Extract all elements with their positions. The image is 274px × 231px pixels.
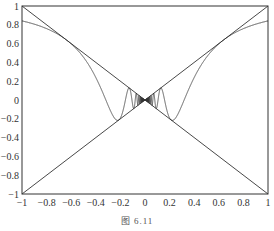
svg-text:−1: −1 xyxy=(8,189,19,200)
svg-text:0.4: 0.4 xyxy=(7,57,20,68)
axis-ticks: −1−0.8−0.6−0.4−0.200.20.40.60.81−1−0.8−0… xyxy=(1,1,271,209)
svg-text:−0.4: −0.4 xyxy=(1,132,19,143)
svg-text:0.2: 0.2 xyxy=(163,197,176,208)
svg-text:0.6: 0.6 xyxy=(7,38,20,49)
svg-text:0: 0 xyxy=(14,95,19,106)
svg-text:1: 1 xyxy=(266,197,271,208)
svg-text:−0.2: −0.2 xyxy=(111,197,129,208)
svg-text:0.8: 0.8 xyxy=(237,197,250,208)
svg-text:0.4: 0.4 xyxy=(188,197,201,208)
svg-text:0.6: 0.6 xyxy=(213,197,226,208)
figure-caption: 图 6.11 xyxy=(0,214,274,227)
svg-text:0.2: 0.2 xyxy=(7,76,20,87)
svg-text:0: 0 xyxy=(143,197,148,208)
plot-lines xyxy=(22,6,268,194)
svg-text:−0.8: −0.8 xyxy=(1,170,19,181)
svg-text:−0.6: −0.6 xyxy=(1,151,19,162)
svg-text:−0.6: −0.6 xyxy=(62,197,80,208)
svg-text:−0.4: −0.4 xyxy=(87,197,105,208)
svg-text:1: 1 xyxy=(14,1,19,12)
svg-text:−0.2: −0.2 xyxy=(1,113,19,124)
svg-text:0.8: 0.8 xyxy=(7,19,20,30)
chart-plot: −1−0.8−0.6−0.4−0.200.20.40.60.81−1−0.8−0… xyxy=(0,0,274,210)
svg-text:−0.8: −0.8 xyxy=(38,197,56,208)
